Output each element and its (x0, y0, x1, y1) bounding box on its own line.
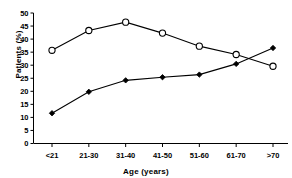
x-category-label: >70 (267, 151, 280, 160)
data-point-marker (270, 63, 276, 69)
x-axis-title: Age (years) (123, 167, 169, 176)
y-tick-label: 5 (24, 126, 28, 135)
y-tick-label: 0 (24, 139, 28, 148)
y-tick-label: 45 (20, 22, 28, 31)
data-point-marker (123, 78, 128, 83)
y-tick-label-group: 05101520253035404550 (20, 9, 28, 149)
y-tick-label: 25 (20, 74, 28, 83)
x-category-label: 51-60 (190, 151, 209, 160)
data-point-marker (197, 72, 202, 77)
series-line (52, 22, 273, 66)
x-category-label: 31-40 (116, 151, 135, 160)
data-point-marker (270, 45, 275, 50)
x-category-label: 41-50 (153, 151, 172, 160)
line-chart-plot: 05101520253035404550 <2121-3031-4041-505… (0, 0, 292, 178)
data-point-marker (86, 27, 92, 33)
y-tick-label: 40 (20, 35, 28, 44)
series-line (52, 48, 273, 113)
data-point-marker (49, 47, 55, 53)
series-layer (49, 19, 276, 116)
x-category-label: 21-30 (79, 151, 98, 160)
data-point-marker (233, 51, 239, 57)
data-point-marker (49, 111, 54, 116)
x-category-label: <21 (46, 151, 59, 160)
y-tick-label: 10 (20, 113, 28, 122)
data-point-marker (123, 19, 129, 25)
data-point-marker (196, 43, 202, 49)
y-tick-label: 35 (20, 48, 28, 57)
y-tick-label: 15 (20, 100, 28, 109)
data-point-marker (233, 61, 238, 66)
x-category-label: 61-70 (227, 151, 246, 160)
chart-container: Patients (%) 05101520253035404550 <2121-… (0, 0, 292, 178)
data-point-marker (159, 30, 165, 36)
data-point-marker (86, 89, 91, 94)
y-tick-label: 20 (20, 87, 28, 96)
y-tick-label: 30 (20, 61, 28, 70)
data-point-marker (160, 75, 165, 80)
y-tick-label: 50 (20, 9, 28, 18)
x-category-label-group: <2121-3031-4041-5051-6061-70>70 (46, 151, 280, 160)
x-axis-title-wrap: Age (years) (0, 160, 292, 178)
x-tick-marks (52, 144, 273, 148)
